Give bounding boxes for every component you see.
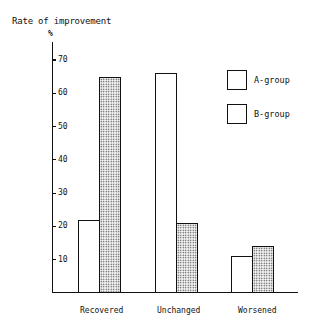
y-tick (52, 193, 56, 194)
y-tick-label: 70 (58, 56, 68, 64)
y-tick-label: 10 (58, 256, 68, 264)
bar-a-group-recovered (78, 220, 100, 293)
x-category-label: Unchanged (157, 306, 200, 315)
y-axis-line (52, 42, 53, 293)
legend-label-a-group: A-group (254, 75, 290, 85)
y-tick-label: 30 (58, 189, 68, 197)
y-tick-label: 20 (58, 222, 68, 230)
legend-label-b-group: B-group (254, 109, 290, 119)
legend-swatch-a-group (227, 70, 247, 90)
x-category-label: Worsened (238, 306, 277, 315)
bar-a-group-worsened (231, 256, 253, 293)
y-tick (52, 226, 56, 227)
chart-title: Rate of improvement (12, 16, 111, 26)
x-category-label: Recovered (80, 306, 123, 315)
y-tick-label: 40 (58, 156, 68, 164)
y-tick (52, 59, 56, 60)
y-tick (52, 126, 56, 127)
y-tick (52, 159, 56, 160)
bar-b-group-worsened (252, 246, 274, 293)
bar-b-group-recovered (99, 77, 121, 293)
y-axis-unit: % (48, 29, 53, 38)
bar-b-group-unchanged (176, 223, 198, 293)
bar-a-group-unchanged (155, 73, 177, 293)
y-tick-label: 50 (58, 123, 68, 131)
legend-swatch-b-group (227, 104, 247, 124)
y-tick (52, 93, 56, 94)
y-tick (52, 259, 56, 260)
y-tick-label: 60 (58, 89, 68, 97)
